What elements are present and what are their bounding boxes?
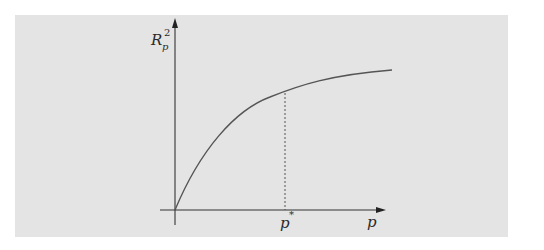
saturation-curve (175, 70, 392, 210)
y-axis-arrow-icon (172, 18, 178, 28)
p-star-label: p * (280, 216, 290, 231)
diagram-canvas (0, 0, 544, 250)
x-axis-label: p (367, 215, 377, 230)
y-label-base: R (151, 31, 162, 49)
y-label-subscript: p (162, 42, 168, 52)
y-label-superscript: 2 (164, 28, 170, 38)
y-axis-label: R p 2 (151, 33, 162, 48)
p-star-superscript: * (289, 210, 294, 220)
x-axis-arrow-icon (376, 207, 386, 213)
